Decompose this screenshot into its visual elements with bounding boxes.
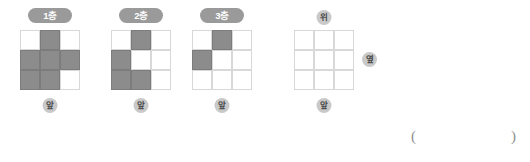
cube-cell-empty bbox=[232, 70, 252, 90]
cube-cell-filled bbox=[131, 70, 151, 90]
cube-cell-empty bbox=[314, 70, 334, 90]
cube-cell-empty bbox=[192, 30, 212, 50]
label-front-floor-2: 앞 bbox=[134, 98, 149, 113]
cube-cell-empty bbox=[151, 70, 171, 90]
cube-grid-answer-grid bbox=[294, 30, 354, 90]
cube-cell-empty bbox=[232, 50, 252, 70]
floor-badge-floor-2: 2층 bbox=[119, 8, 163, 23]
floor-badge-floor-1: 1층 bbox=[28, 8, 72, 23]
label-front-floor-3: 앞 bbox=[215, 98, 230, 113]
cube-cell-empty bbox=[334, 70, 354, 90]
cube-cell-filled bbox=[131, 30, 151, 50]
label-side-answer-grid: 옆 bbox=[362, 52, 377, 67]
cube-cell-empty bbox=[151, 50, 171, 70]
cube-cell-empty bbox=[60, 70, 80, 90]
cube-cell-filled bbox=[111, 50, 131, 70]
cube-cell-filled bbox=[192, 50, 212, 70]
cube-cell-empty bbox=[60, 30, 80, 50]
floor-badge-floor-3: 3층 bbox=[200, 8, 244, 23]
cube-cell-empty bbox=[131, 50, 151, 70]
cube-cell-filled bbox=[20, 70, 40, 90]
cube-grid-floor-1 bbox=[20, 30, 80, 90]
cube-cell-filled bbox=[111, 70, 131, 90]
cube-cell-empty bbox=[151, 30, 171, 50]
cube-cell-empty bbox=[334, 50, 354, 70]
cube-cell-empty bbox=[212, 70, 232, 90]
cube-cell-empty bbox=[232, 30, 252, 50]
cube-cell-filled bbox=[40, 70, 60, 90]
cube-cell-empty bbox=[314, 50, 334, 70]
cube-cell-filled bbox=[20, 50, 40, 70]
cube-cell-empty bbox=[111, 30, 131, 50]
cube-cell-filled bbox=[40, 30, 60, 50]
cube-cell-empty bbox=[212, 50, 232, 70]
label-front-floor-1: 앞 bbox=[43, 98, 58, 113]
cube-cell-filled bbox=[40, 50, 60, 70]
cube-cell-empty bbox=[294, 30, 314, 50]
cube-cell-empty bbox=[334, 30, 354, 50]
cube-cell-empty bbox=[192, 70, 212, 90]
label-front-answer-grid: 앞 bbox=[317, 98, 332, 113]
cube-cell-empty bbox=[20, 30, 40, 50]
cube-grid-floor-2 bbox=[111, 30, 171, 90]
cube-cell-empty bbox=[314, 30, 334, 50]
cube-grid-floor-3 bbox=[192, 30, 252, 90]
answer-blank-open-paren: ( bbox=[411, 128, 416, 145]
cube-cell-filled bbox=[212, 30, 232, 50]
cube-cell-empty bbox=[294, 50, 314, 70]
cube-cell-empty bbox=[294, 70, 314, 90]
label-top-answer-grid: 위 bbox=[317, 10, 332, 25]
answer-blank-close-paren: ) bbox=[511, 128, 516, 145]
worksheet-canvas: 1층앞2층앞3층앞위옆앞() bbox=[0, 0, 530, 162]
cube-cell-filled bbox=[60, 50, 80, 70]
